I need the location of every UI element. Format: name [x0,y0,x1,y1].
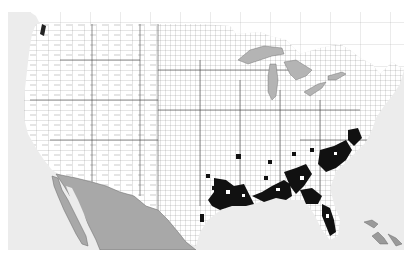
county-map [8,12,404,250]
map-frame [8,12,404,250]
